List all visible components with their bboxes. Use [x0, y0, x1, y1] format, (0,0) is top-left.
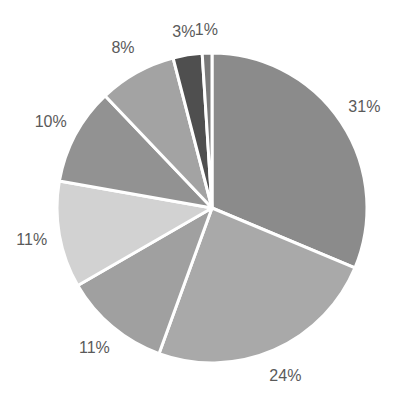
slice-label: 11% [16, 231, 47, 249]
slice-label: 3% [172, 23, 195, 41]
pie-chart [0, 0, 413, 400]
slice-label: 10% [35, 113, 67, 131]
slice-label: 8% [111, 39, 134, 57]
slice-label: 1% [195, 21, 218, 39]
slice-label: 31% [348, 98, 380, 116]
slice-label: 11% [79, 339, 110, 357]
slice-label: 24% [269, 367, 301, 385]
